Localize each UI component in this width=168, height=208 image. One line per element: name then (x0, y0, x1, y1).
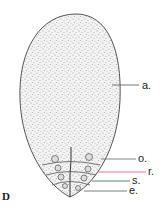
embryo-diagram (0, 0, 168, 208)
label-r: r. (148, 166, 154, 177)
label-e: e. (129, 185, 138, 196)
panel-letter: D (2, 190, 10, 202)
label-o: o. (138, 153, 147, 164)
label-a: a. (142, 80, 151, 91)
